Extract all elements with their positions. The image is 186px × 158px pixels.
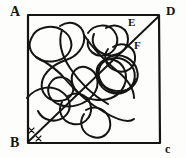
vertex-label-a: A	[10, 5, 20, 19]
point-label-e: E	[128, 17, 135, 28]
vertex-label-d: D	[166, 4, 175, 17]
vertex-label-b: B	[10, 136, 19, 150]
point-label-f: F	[134, 40, 141, 51]
angle-mark-lower-x	[36, 136, 41, 141]
tangled-curve	[27, 23, 138, 138]
geometry-diagram: A D B c E F	[0, 0, 186, 158]
vertex-label-c: c	[165, 143, 170, 155]
figure-canvas	[0, 0, 186, 158]
angle-mark-upper-x	[29, 128, 34, 133]
